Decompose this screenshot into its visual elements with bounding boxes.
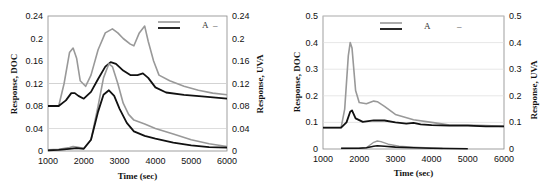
left-chart: 00.040.080.120.160.20.24 00.040.080.120.…	[0, 0, 274, 185]
y-axis-left-ticks: 00.10.20.30.40.5	[305, 11, 318, 154]
x-tick-label: 4000	[422, 154, 442, 164]
y-right-tick-label: 0.16	[232, 56, 250, 66]
x-tick-label: 1000	[313, 154, 333, 164]
y-right-tick-label: 0	[509, 144, 514, 154]
legend-label: A	[424, 21, 431, 31]
x-tick-label: 3000	[385, 154, 405, 164]
x-tick-label: 6000	[217, 156, 237, 166]
y-axis-right-ticks: 00.10.20.30.40.5	[509, 11, 522, 154]
legend-label: –	[212, 20, 218, 30]
x-tick-label: 2000	[74, 156, 94, 166]
plot-area	[323, 16, 504, 149]
y-tick-label: 0	[38, 146, 43, 156]
legend-label: –	[456, 21, 462, 31]
y-right-tick-label: 0.1	[509, 117, 522, 127]
legend-label: A	[202, 20, 209, 30]
y-tick-label: 0.1	[305, 117, 318, 127]
y-right-tick-label: 0.2	[509, 91, 522, 101]
y-tick-label: 0.08	[25, 101, 43, 111]
y-right-tick-label: 0.2	[232, 34, 245, 44]
y-right-tick-label: 0.3	[509, 64, 522, 74]
x-tick-label: 4000	[145, 156, 165, 166]
y-tick-label: 0.24	[25, 11, 43, 21]
y-axis-label-left: Response, DOC	[292, 52, 302, 113]
y-axis-right-ticks: 00.040.080.120.160.20.24	[232, 11, 250, 156]
y-tick-label: 0.2	[305, 91, 318, 101]
y-tick-label: 0.4	[305, 38, 318, 48]
y-tick-label: 0.16	[25, 56, 43, 66]
y-axis-left-ticks: 00.040.080.120.160.20.24	[25, 11, 43, 156]
y-right-tick-label: 0.24	[232, 11, 250, 21]
y-axis-label-right: Response, UVA	[529, 60, 539, 119]
x-axis-label: Time (sec)	[394, 168, 434, 178]
x-axis-ticks: 100020003000400050006000	[313, 154, 514, 164]
y-right-tick-label: 0	[232, 146, 237, 156]
y-right-tick-label: 0.4	[509, 38, 522, 48]
x-axis-ticks: 100020003000400050006000	[38, 156, 237, 166]
y-right-tick-label: 0.08	[232, 101, 250, 111]
x-tick-label: 5000	[181, 156, 201, 166]
y-tick-label: 0.2	[30, 34, 43, 44]
y-tick-label: 0.04	[25, 124, 43, 134]
y-axis-label-left: Response, DOC	[9, 54, 19, 115]
x-tick-label: 5000	[458, 154, 478, 164]
x-axis-label: Time (sec)	[118, 171, 158, 181]
y-tick-label: 0	[313, 144, 318, 154]
y-right-tick-label: 0.5	[509, 11, 522, 21]
y-tick-label: 0.3	[305, 64, 318, 74]
y-tick-label: 0.12	[25, 79, 43, 89]
y-axis-label-right: Response, UVA	[255, 54, 265, 113]
y-right-tick-label: 0.04	[232, 124, 250, 134]
plot-area	[48, 16, 227, 151]
x-tick-label: 2000	[349, 154, 369, 164]
x-tick-label: 1000	[38, 156, 58, 166]
right-chart: 00.10.20.30.40.5 00.10.20.30.40.5 100020…	[274, 0, 548, 185]
y-tick-label: 0.5	[305, 11, 318, 21]
x-tick-label: 6000	[494, 154, 514, 164]
y-right-tick-label: 0.12	[232, 79, 250, 89]
x-tick-label: 3000	[110, 156, 130, 166]
